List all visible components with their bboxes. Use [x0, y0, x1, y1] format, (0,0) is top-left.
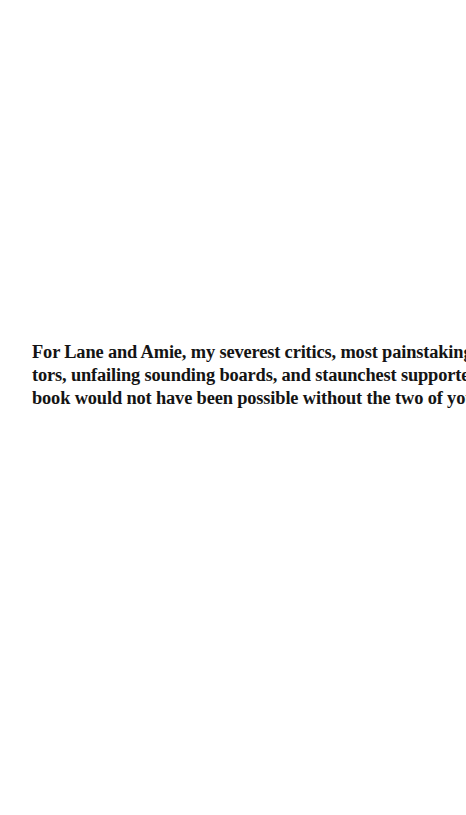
book-page: For Lane and Amie, my severest critics, … [0, 0, 466, 815]
dedication-line-3: book would not have been possible withou… [32, 387, 423, 410]
dedication-paragraph: For Lane and Amie, my severest critics, … [32, 341, 423, 410]
dedication-line-1: For Lane and Amie, my severest critics, … [32, 341, 423, 364]
dedication-line-2: tors, unfailing sounding boards, and sta… [32, 364, 423, 387]
